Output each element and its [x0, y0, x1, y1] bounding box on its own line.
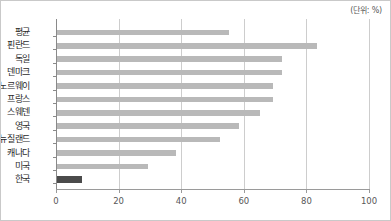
- bar: [57, 164, 148, 170]
- bar: [57, 176, 82, 183]
- bar-row: 캐나다: [56, 147, 369, 160]
- bar: [57, 30, 229, 36]
- x-tick-mark-40: [181, 189, 182, 193]
- bar-row: 평균: [56, 26, 369, 39]
- category-tick-mark: [53, 49, 56, 50]
- category-label: 영국: [15, 120, 30, 133]
- category-tick-mark: [53, 143, 56, 144]
- category-tick-mark: [53, 76, 56, 77]
- x-tick-label: 60: [238, 196, 249, 206]
- bar-row: 노르웨이: [56, 80, 369, 93]
- x-tick-label: 40: [176, 196, 187, 206]
- bar-row: 스웨덴: [56, 106, 369, 119]
- category-tick-mark: [53, 116, 56, 117]
- bar: [57, 83, 273, 89]
- category-label: 핀란드: [7, 39, 30, 52]
- category-tick-mark: [53, 157, 56, 158]
- bar-chart-figure: (단위: %) 평균핀란드독일덴마크노르웨이프랑스스웨덴영국뉴질랜드캐나다미국한…: [0, 0, 391, 221]
- category-tick-mark: [53, 63, 56, 64]
- category-tick-mark: [53, 170, 56, 171]
- category-label: 프랑스: [7, 93, 30, 106]
- bar: [57, 137, 220, 143]
- x-tick-mark-100: [369, 189, 370, 193]
- category-label: 미국: [15, 160, 30, 173]
- x-tick-mark-80: [306, 189, 307, 193]
- bar: [57, 150, 176, 156]
- bar-row: 핀란드: [56, 39, 369, 52]
- bar-row: 뉴질랜드: [56, 133, 369, 146]
- gridline-100: [369, 19, 370, 189]
- category-label: 덴마크: [7, 66, 30, 79]
- bar: [57, 97, 273, 103]
- category-tick-mark: [53, 103, 56, 104]
- bar: [57, 123, 239, 129]
- x-axis-line: [56, 189, 370, 190]
- bar-row: 미국: [56, 160, 369, 173]
- bar: [57, 110, 260, 116]
- x-tick-mark-60: [244, 189, 245, 193]
- x-tick-label: 100: [361, 196, 377, 206]
- x-tick-mark-0: [56, 189, 57, 193]
- bar: [57, 43, 317, 49]
- category-tick-mark: [53, 90, 56, 91]
- bar: [57, 70, 282, 76]
- bar: [57, 56, 282, 62]
- bar-row: 한국: [56, 173, 369, 186]
- unit-label: (단위: %): [350, 4, 382, 15]
- category-label: 뉴질랜드: [0, 133, 30, 146]
- category-tick-mark: [53, 183, 56, 184]
- bar-row: 덴마크: [56, 66, 369, 79]
- bar-row: 영국: [56, 120, 369, 133]
- category-label: 노르웨이: [0, 80, 30, 93]
- category-tick-mark: [53, 130, 56, 131]
- category-label: 스웨덴: [7, 106, 30, 119]
- category-label: 독일: [15, 53, 30, 66]
- category-label: 평균: [15, 26, 30, 39]
- plot-area: 평균핀란드독일덴마크노르웨이프랑스스웨덴영국뉴질랜드캐나다미국한국: [56, 19, 369, 189]
- x-tick-mark-20: [119, 189, 120, 193]
- x-tick-label: 0: [53, 196, 58, 206]
- x-tick-label: 20: [113, 196, 124, 206]
- category-label: 한국: [15, 173, 30, 186]
- x-tick-label: 80: [301, 196, 312, 206]
- category-tick-mark: [53, 36, 56, 37]
- bar-row: 프랑스: [56, 93, 369, 106]
- category-label: 캐나다: [7, 147, 30, 160]
- bar-row: 독일: [56, 53, 369, 66]
